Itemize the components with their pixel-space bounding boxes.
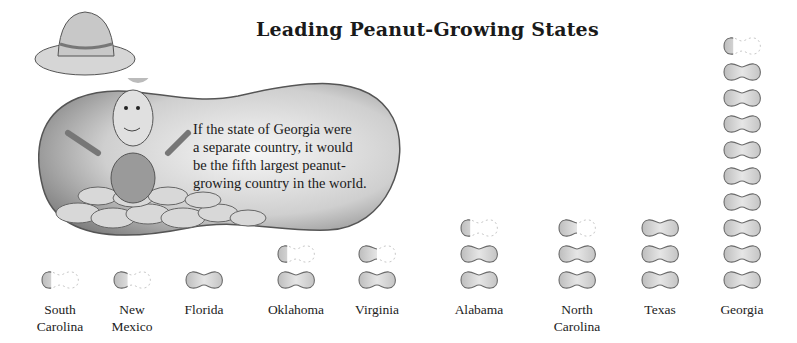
peanut-column xyxy=(174,265,234,291)
partial-peanut-icon xyxy=(355,243,399,265)
partial-peanut-icon xyxy=(274,243,318,265)
peanut-column xyxy=(712,31,772,291)
label-virginia: Virginia xyxy=(332,301,422,318)
label-north-carolina: NorthCarolina xyxy=(532,301,622,335)
peanut-icon xyxy=(638,217,682,239)
callout-line: a separate country, it would xyxy=(193,138,413,156)
peanut-icon xyxy=(457,243,501,265)
peanut-icon xyxy=(720,87,764,109)
callout-line: be the fifth largest peanut- xyxy=(193,156,413,174)
peanut-icon xyxy=(720,243,764,265)
peanut-icon xyxy=(720,269,764,291)
partial-peanut-icon xyxy=(457,217,501,239)
peanut-icon xyxy=(720,165,764,187)
partial-peanut-icon xyxy=(720,35,764,57)
peanut-icon xyxy=(720,61,764,83)
peanut-icon xyxy=(638,243,682,265)
partial-peanut-icon xyxy=(38,269,82,291)
peanut-column xyxy=(547,213,607,291)
peanut-icon xyxy=(182,269,226,291)
label-oklahoma: Oklahoma xyxy=(251,301,341,318)
peanut-icon xyxy=(720,191,764,213)
peanut-column xyxy=(449,213,509,291)
partial-peanut-icon xyxy=(110,269,154,291)
label-florida: Florida xyxy=(159,301,249,318)
label-texas: Texas xyxy=(615,301,705,318)
label-alabama: Alabama xyxy=(434,301,524,318)
peanut-icon xyxy=(555,243,599,265)
chart-title: Leading Peanut-Growing States xyxy=(256,18,599,40)
peanut-icon xyxy=(720,139,764,161)
peanut-column xyxy=(630,213,690,291)
peanut-column xyxy=(347,239,407,291)
callout-line: growing country in the world. xyxy=(193,174,413,192)
peanut-icon xyxy=(555,269,599,291)
peanut-icon xyxy=(638,269,682,291)
callout-line: If the state of Georgia were xyxy=(193,120,413,138)
peanut-icon xyxy=(355,269,399,291)
peanut-column xyxy=(102,265,162,291)
partial-peanut-icon xyxy=(555,217,599,239)
peanut-icon xyxy=(720,113,764,135)
peanut-column xyxy=(266,239,326,291)
peanut-column xyxy=(30,265,90,291)
peanut-icon xyxy=(720,217,764,239)
peanut-icon xyxy=(457,269,501,291)
label-georgia: Georgia xyxy=(697,301,787,318)
callout-text: If the state of Georgia were a separate … xyxy=(193,120,413,192)
straw-hat-icon xyxy=(30,4,140,84)
peanut-icon xyxy=(274,269,318,291)
